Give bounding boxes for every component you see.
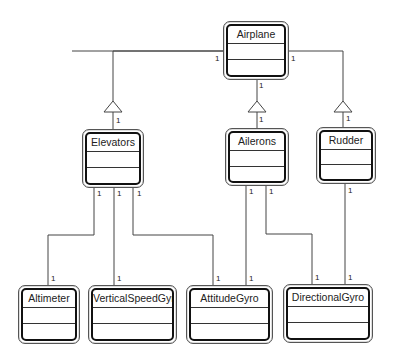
class-name: Airplane bbox=[228, 26, 284, 43]
class-name: VerticalSpeedGyro bbox=[93, 290, 172, 307]
operations-compartment bbox=[191, 323, 268, 339]
multiplicity-label: 1 bbox=[97, 190, 101, 198]
class-altimeter[interactable]: Altimeter bbox=[18, 285, 80, 344]
generalization-arrow-icon bbox=[104, 101, 122, 112]
association-elevators-altimeter bbox=[48, 188, 94, 285]
class-airplane[interactable]: Airplane bbox=[223, 21, 289, 80]
attributes-compartment bbox=[321, 149, 371, 164]
multiplicity-label: 1 bbox=[249, 275, 253, 283]
class-name: Elevators bbox=[87, 134, 139, 151]
association-ailerons-directionalgyro bbox=[266, 186, 312, 284]
generalization-line-rudder bbox=[289, 51, 343, 101]
generalization-arrow-icon bbox=[334, 101, 352, 112]
class-name: AttitudeGyro bbox=[191, 290, 268, 307]
attributes-compartment bbox=[191, 307, 268, 323]
multiplicity-label: 1 bbox=[291, 55, 295, 63]
attributes-compartment bbox=[288, 306, 368, 322]
class-name: Ailerons bbox=[230, 133, 284, 150]
operations-compartment bbox=[288, 322, 368, 338]
attributes-compartment bbox=[93, 307, 172, 323]
attributes-compartment bbox=[230, 150, 284, 166]
class-name: DirectionalGyro bbox=[288, 289, 368, 306]
operations-compartment bbox=[230, 166, 284, 182]
multiplicity-label: 1 bbox=[315, 274, 319, 282]
multiplicity-label: 1 bbox=[269, 188, 273, 196]
multiplicity-label: 1 bbox=[346, 115, 350, 123]
operations-compartment bbox=[93, 323, 172, 339]
class-rudder[interactable]: Rudder bbox=[316, 127, 376, 184]
class-verticalspeedgyro[interactable]: VerticalSpeedGyro bbox=[88, 285, 177, 344]
multiplicity-label: 1 bbox=[348, 274, 352, 282]
multiplicity-label: 1 bbox=[215, 55, 219, 63]
multiplicity-label: 1 bbox=[117, 275, 121, 283]
generalization-arrow-icon bbox=[248, 101, 266, 112]
class-name: Altimeter bbox=[23, 290, 75, 307]
multiplicity-label: 1 bbox=[51, 275, 55, 283]
class-directionalgyro[interactable]: DirectionalGyro bbox=[283, 284, 373, 343]
multiplicity-label: 1 bbox=[116, 117, 120, 125]
attributes-compartment bbox=[23, 307, 75, 323]
generalization-line-elevators bbox=[71, 51, 223, 101]
attributes-compartment bbox=[87, 151, 139, 167]
operations-compartment bbox=[228, 59, 284, 75]
operations-compartment bbox=[87, 167, 139, 183]
class-attitudegyro[interactable]: AttitudeGyro bbox=[186, 285, 273, 344]
multiplicity-label: 1 bbox=[216, 275, 220, 283]
multiplicity-label: 1 bbox=[117, 190, 121, 198]
class-ailerons[interactable]: Ailerons bbox=[225, 128, 289, 186]
attributes-compartment bbox=[228, 43, 284, 59]
operations-compartment bbox=[23, 323, 75, 339]
class-name: Rudder bbox=[321, 132, 371, 149]
generalization-line-elevators-fixed bbox=[113, 51, 223, 101]
multiplicity-label: 1 bbox=[259, 82, 263, 90]
class-elevators[interactable]: Elevators bbox=[82, 129, 144, 188]
multiplicity-label: 1 bbox=[348, 187, 352, 195]
operations-compartment bbox=[321, 164, 371, 179]
multiplicity-label: 1 bbox=[137, 190, 141, 198]
multiplicity-label: 1 bbox=[259, 116, 263, 124]
association-elevators-attitudegyro bbox=[133, 188, 213, 285]
multiplicity-label: 1 bbox=[249, 188, 253, 196]
